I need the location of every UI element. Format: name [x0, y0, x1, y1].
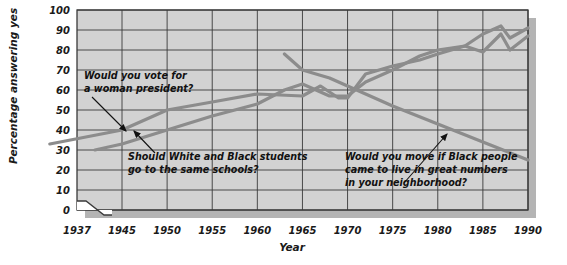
x-tick-label: 1985: [469, 225, 497, 236]
svg-text:came to live in great numbers: came to live in great numbers: [345, 164, 508, 175]
y-tick-label: 40: [55, 125, 70, 136]
y-tick-label: 60: [56, 85, 70, 96]
y-tick-label: 80: [56, 45, 70, 56]
x-tick-label: 1937: [63, 225, 91, 236]
x-axis-tick-labels: 1937194519501955196019651970197519801985…: [63, 225, 542, 236]
y-axis-tick-labels: 0102030405060708090100: [49, 5, 70, 216]
x-tick-label: 1960: [243, 225, 271, 236]
x-tick-label: 1970: [334, 225, 362, 236]
x-tick-label: 1975: [379, 225, 407, 236]
x-tick-label: 1950: [153, 225, 181, 236]
y-tick-label: 50: [56, 105, 70, 116]
x-axis-title: Year: [279, 241, 305, 253]
y-tick-label: 70: [56, 65, 70, 76]
x-tick-label: 1965: [289, 225, 317, 236]
x-tick-label: 1955: [198, 225, 226, 236]
y-tick-label: 100: [49, 5, 70, 16]
x-tick-label: 1945: [108, 225, 136, 236]
x-tick-label: 1990: [514, 225, 542, 236]
line-chart: 0102030405060708090100 19371945195019551…: [0, 0, 567, 265]
y-tick-label: 90: [56, 25, 70, 36]
svg-text:in your neighborhood?: in your neighborhood?: [345, 177, 468, 188]
svg-text:a woman president?: a woman president?: [84, 83, 194, 94]
svg-text:Should White and Black student: Should White and Black students: [128, 151, 308, 162]
y-tick-label: 10: [56, 185, 70, 196]
y-tick-label: 20: [56, 165, 70, 176]
y-tick-label: 0: [63, 205, 70, 216]
y-axis-title: Percentage answering yes: [7, 8, 19, 164]
svg-text:go to the same schools?: go to the same schools?: [128, 164, 259, 175]
svg-text:Would you move if Black people: Would you move if Black people: [345, 151, 518, 162]
chart-figure: 0102030405060708090100 19371945195019551…: [0, 0, 567, 265]
y-tick-label: 30: [56, 145, 70, 156]
svg-text:Would you vote for: Would you vote for: [84, 70, 188, 81]
x-tick-label: 1980: [424, 225, 452, 236]
